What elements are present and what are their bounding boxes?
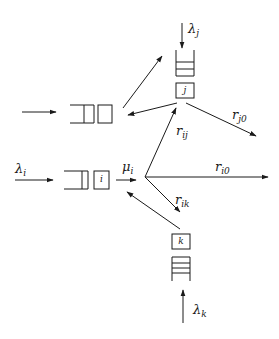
lambda-i-label: λi [15, 162, 26, 178]
r-ik-label: rik [175, 193, 190, 209]
j-to-other-arrow [128, 103, 177, 115]
node-k [172, 234, 190, 323]
r-ij-label: rij [176, 124, 188, 140]
j-server-label: j [176, 86, 194, 95]
lambda-k-label: λk [193, 303, 207, 319]
other-server [98, 105, 112, 123]
other-node [22, 105, 112, 123]
r-ij-arrow [145, 108, 176, 177]
r-i0-label: ri0 [215, 160, 230, 176]
node-i [15, 171, 136, 189]
routing-from-i [145, 108, 268, 212]
k-server-label: k [172, 237, 190, 246]
other-to-j-arrow [123, 56, 162, 108]
j-queue-buffer [176, 50, 194, 76]
r-j0-label: rj0 [232, 108, 247, 124]
queueing-network-diagram: j i k λj λi μi λk rij ri0 rik rj0 [0, 0, 279, 339]
i-server-label: i [94, 175, 109, 184]
mu-i-label: μi [122, 160, 133, 176]
i-queue-buffer [64, 171, 88, 189]
other-queue-buffer [70, 105, 94, 123]
k-to-i-arrow [127, 192, 180, 229]
k-queue-buffer [172, 257, 190, 281]
diagram-canvas [0, 0, 279, 339]
lambda-j-label: λj [188, 22, 199, 38]
